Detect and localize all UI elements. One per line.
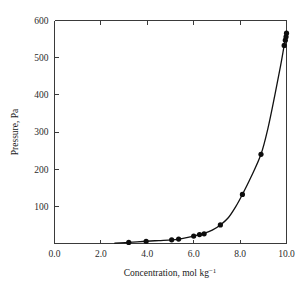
data-point xyxy=(144,239,149,244)
x-tick-label: 4.0 xyxy=(141,249,153,259)
data-point xyxy=(284,31,289,36)
data-point xyxy=(176,236,181,241)
data-point xyxy=(197,232,202,237)
y-tick-label: 200 xyxy=(34,165,49,175)
x-tick-label: 0.0 xyxy=(49,249,61,259)
y-axis-title: Pressure, Pa xyxy=(10,108,20,155)
x-axis-title: Concentration, mol kg−1 xyxy=(124,267,217,279)
y-tick-label: 500 xyxy=(34,53,49,63)
x-axis-ticks xyxy=(101,21,240,244)
x-tick-label: 8.0 xyxy=(234,249,246,259)
y-tick-label: 100 xyxy=(34,202,49,212)
data-point-group xyxy=(126,31,289,245)
x-axis-title-exponent: −1 xyxy=(209,267,217,275)
y-tick-label: 400 xyxy=(34,90,49,100)
x-tick-label: 2.0 xyxy=(95,249,107,259)
y-axis-ticks xyxy=(55,58,59,207)
data-point xyxy=(240,192,245,197)
y-tick-label: 600 xyxy=(34,16,49,26)
data-point xyxy=(126,240,131,245)
fitted-curve xyxy=(115,33,287,243)
pressure-vs-concentration-chart: 100200300400500600 0.02.04.06.08.010.0 P… xyxy=(0,0,308,293)
x-axis-tick-labels: 0.02.04.06.08.010.0 xyxy=(49,249,296,259)
x-tick-label: 6.0 xyxy=(188,249,200,259)
data-point xyxy=(258,152,263,157)
data-point xyxy=(169,237,174,242)
axis-frame xyxy=(55,21,287,244)
figure-container: 100200300400500600 0.02.04.06.08.010.0 P… xyxy=(0,0,308,293)
data-point xyxy=(202,231,207,236)
x-tick-label: 10.0 xyxy=(278,249,295,259)
data-point xyxy=(191,233,196,238)
data-point xyxy=(282,43,287,48)
y-axis-tick-labels: 100200300400500600 xyxy=(34,16,49,212)
data-point xyxy=(218,222,223,227)
y-tick-label: 300 xyxy=(34,127,49,137)
x-axis-title-main: Concentration, mol kg xyxy=(124,268,209,278)
